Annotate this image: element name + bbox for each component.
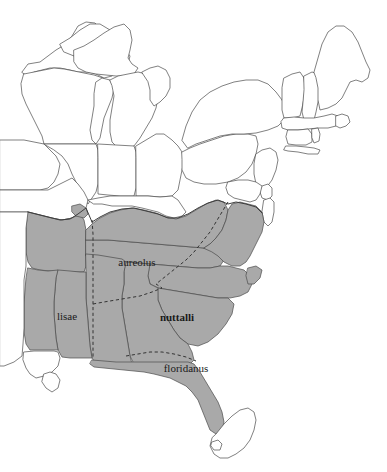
cape-cod [336,114,350,128]
state-louisiana-shaded [24,268,58,350]
label-floridanus: floridanus [164,362,209,374]
label-nuttalli: nuttalli [160,311,194,323]
state-connecticut [286,129,312,145]
map-canvas: aureolus lisae nuttalli floridanus [0,0,387,472]
state-maryland [226,180,262,202]
state-indiana [98,144,136,196]
state-texas-corner [0,212,28,366]
shaded-range-group [0,200,264,458]
distribution-map-figure: aureolus lisae nuttalli floridanus [0,0,387,472]
state-maine [314,26,370,110]
label-aureolus: aureolus [118,256,155,268]
unshaded-states-group [0,22,370,226]
state-rhode-island [312,128,320,143]
state-ohio [136,134,184,197]
state-vermont [282,72,305,118]
label-lisae: lisae [57,310,77,322]
long-island [284,146,320,154]
outer-banks [246,266,262,284]
louisiana-delta [42,372,60,392]
state-arkansas [26,212,86,272]
